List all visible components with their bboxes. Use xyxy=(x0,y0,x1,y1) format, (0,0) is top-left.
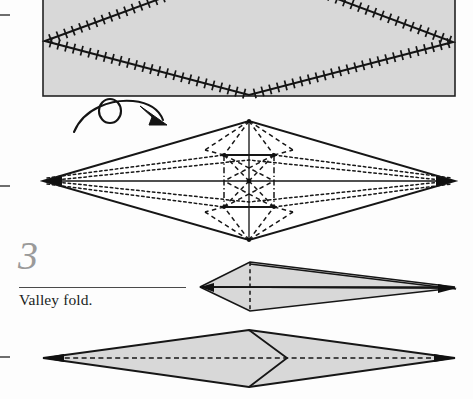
step-number: 3 xyxy=(18,236,38,276)
figure-4-result-diamond xyxy=(0,0,473,399)
step-caption: Valley fold. xyxy=(19,291,93,309)
caption-rule xyxy=(19,287,186,288)
diagram-page: 3 Valley fold. xyxy=(0,0,473,399)
